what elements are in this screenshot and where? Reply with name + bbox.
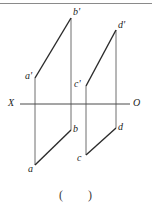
segment-c-prime-d-prime [86,30,116,86]
figure-canvas [0,0,152,210]
segment-a-b [35,130,71,165]
axis-label-o: O [133,98,140,108]
point-label-b-prime: b' [73,7,80,17]
segment-c-d [86,128,116,155]
point-label-a: a [28,164,33,174]
segment-a-prime-b-prime [35,18,71,78]
answer-blank[interactable]: ( ) [0,188,152,203]
point-label-a-prime: a' [25,71,32,81]
point-label-d: d [118,122,123,132]
point-label-c: c [77,153,81,163]
projection-figure: X O a' b' c' d' a b c d ( ) [0,0,152,210]
point-label-b: b [73,124,78,134]
point-label-d-prime: d' [118,20,125,30]
point-label-c-prime: c' [74,79,81,89]
axis-label-x: X [8,98,14,108]
